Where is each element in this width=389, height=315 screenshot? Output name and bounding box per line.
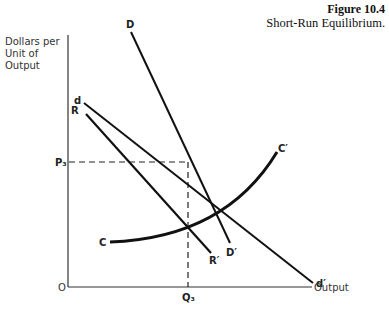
label-C-prime: C′ [278,143,288,154]
label-R-prime: R′ [209,255,220,266]
price-tick-label: P₃ [55,157,67,168]
label-C: C [99,237,106,248]
label-R: R [71,105,79,116]
origin-label: O [58,282,66,293]
equilibrium-diagram: D D′ d d′ R R′ C C′ P₃ Q₃ O Output [0,0,389,315]
label-D: D [126,19,134,30]
curve-D [131,32,230,243]
curve-R [86,114,211,253]
curve-d [84,103,313,283]
quantity-tick-label: Q₃ [182,292,195,303]
label-D-prime: D′ [226,247,237,258]
x-axis-label: Output [314,282,349,293]
